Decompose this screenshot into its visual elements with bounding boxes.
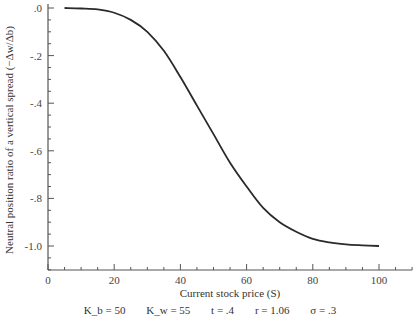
data-line bbox=[65, 8, 379, 246]
y-tick-label: -.4 bbox=[30, 97, 42, 109]
axes bbox=[48, 4, 412, 270]
y-tick-label: -.8 bbox=[30, 192, 42, 204]
x-tick-label: 40 bbox=[175, 274, 187, 286]
y-tick-label: .0 bbox=[34, 2, 43, 14]
x-tick-label: 100 bbox=[371, 274, 388, 286]
x-tick-label: 60 bbox=[241, 274, 253, 286]
line-chart: 020406080100.0-.2-.4-.6-.8-1.0 Current s… bbox=[0, 0, 420, 323]
param-sigma: σ = .3 bbox=[310, 304, 336, 316]
param-kw: K_w = 55 bbox=[146, 304, 190, 316]
param-kb: K_b = 50 bbox=[84, 304, 126, 316]
x-axis-title: Current stock price (S) bbox=[180, 287, 281, 300]
x-tick-label: 80 bbox=[307, 274, 319, 286]
param-t: t = .4 bbox=[211, 304, 234, 316]
y-tick-label: -.2 bbox=[30, 50, 42, 62]
y-tick-label: -1.0 bbox=[25, 240, 43, 252]
x-tick-label: 0 bbox=[45, 274, 51, 286]
y-tick-label: -.6 bbox=[30, 145, 42, 157]
parameter-caption: K_b = 50 K_w = 55 t = .4 r = 1.06 σ = .3 bbox=[0, 304, 420, 316]
y-axis-title: Neutral position ratio of a vertical spr… bbox=[3, 26, 16, 254]
param-r: r = 1.06 bbox=[255, 304, 290, 316]
x-tick-label: 20 bbox=[109, 274, 121, 286]
